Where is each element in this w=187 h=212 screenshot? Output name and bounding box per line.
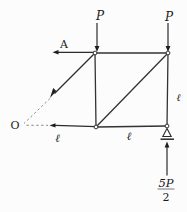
joint-bottom-right [165,124,169,128]
joint-top-left [93,51,97,55]
member-bottom-chord [96,126,167,127]
truss-diagram: P P A O ℓ ℓ ℓ 5P 2 [0,0,187,212]
reaction-arrowhead [165,142,170,148]
joint-top-right [166,51,170,55]
member-diagonal [96,53,168,127]
length-label-right-vertical: ℓ [176,92,180,103]
reaction-numerator-label: 5P [158,176,173,190]
joint-bottom-middle [94,125,98,129]
length-label-bottom-left: ℓ [55,132,60,145]
force-a-label: A [59,38,69,51]
load-label-right: P [164,10,174,24]
member-left-vertical [95,53,96,127]
pin-support-triangle [163,129,171,137]
reaction-denominator-label: 2 [163,191,170,204]
dashed-diagonal-line-of-action [24,99,50,124]
bottom-force-arrowhead [50,123,56,127]
member-right-vertical [167,53,168,126]
length-label-bottom-right: ℓ [127,130,132,143]
load-label-left: P [95,9,105,23]
point-o-label: O [10,119,19,132]
force-a-arrowhead [53,50,59,54]
truss-diagram-canvas: P P A O ℓ ℓ ℓ 5P 2 [0,0,187,212]
bottom-force-arrow [55,125,96,126]
diagonal-force-arrow [55,53,96,94]
